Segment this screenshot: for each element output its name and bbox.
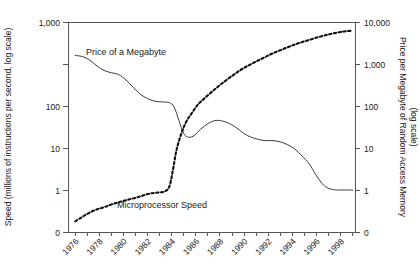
left-axis-tick-labels: 1,000 100 10 1 0 <box>39 18 61 238</box>
chart-figure: 1,000 100 10 1 0 10,000 1,000 100 10 1 0… <box>0 0 420 268</box>
right-tick-label-0: 10,000 <box>364 18 390 28</box>
x-tick-label-1982: 1982 <box>133 236 154 257</box>
left-tick-label-3: 1 <box>55 186 60 196</box>
x-tick-label-1978: 1978 <box>84 236 105 257</box>
x-tick-label-1990: 1990 <box>229 236 250 257</box>
x-tick-label-1984: 1984 <box>157 236 178 257</box>
left-tick-label-4: 0 <box>55 228 60 238</box>
x-tick-label-1994: 1994 <box>277 236 298 257</box>
series-price-of-a-megabyte-line <box>75 55 352 190</box>
left-axis-ticks <box>63 23 68 233</box>
left-axis-title: Speed (millions of instructions per seco… <box>3 28 13 227</box>
right-tick-label-5: 0 <box>364 228 369 238</box>
left-tick-label-1: 100 <box>46 102 60 112</box>
x-axis-tick-labels: 1976197819801982198419861988199019921994… <box>60 236 346 257</box>
right-axis-title: Price per Megabyte of Random Access Memo… <box>398 37 408 218</box>
x-tick-label-1992: 1992 <box>253 236 274 257</box>
right-tick-label-4: 1 <box>364 186 369 196</box>
left-tick-label-0: 1,000 <box>39 18 61 28</box>
left-tick-label-2: 10 <box>51 144 61 154</box>
x-tick-label-1996: 1996 <box>301 236 322 257</box>
series-label-microprocessor-speed: Microprocessor Speed <box>117 200 207 210</box>
right-tick-label-1: 1,000 <box>364 60 386 70</box>
right-axis-tick-labels: 10,000 1,000 100 10 1 0 <box>364 18 390 238</box>
series-label-price-of-a-megabyte: Price of a Megabyte <box>86 47 166 57</box>
series-microprocessor-speed-line <box>75 31 352 222</box>
right-tick-label-2: 100 <box>364 102 378 112</box>
x-tick-label-1988: 1988 <box>205 236 226 257</box>
chart-canvas: 1,000 100 10 1 0 10,000 1,000 100 10 1 0… <box>0 0 420 268</box>
x-tick-label-1976: 1976 <box>60 236 81 257</box>
x-tick-label-1986: 1986 <box>181 236 202 257</box>
right-tick-label-3: 10 <box>364 144 374 154</box>
x-tick-label-1998: 1998 <box>325 236 346 257</box>
x-tick-label-1980: 1980 <box>108 236 129 257</box>
right-axis-title-line2: (log scale) <box>409 107 419 146</box>
